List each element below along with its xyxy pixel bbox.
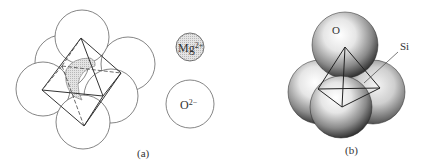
panel-b-tetrahedron bbox=[288, 12, 405, 138]
oxygen-sphere-top bbox=[312, 12, 378, 78]
panel-a-octahedron bbox=[16, 10, 155, 149]
oxygen-sphere-front bbox=[310, 76, 372, 138]
panel-a-caption: (a) bbox=[137, 147, 150, 160]
oxygen-label: O bbox=[332, 24, 340, 36]
panel-b-caption: (b) bbox=[345, 144, 358, 157]
silicon-label: Si bbox=[400, 40, 409, 52]
figure-canvas: Mg2+ O2− (a) O Si (b) bbox=[0, 0, 426, 166]
oxygen-circle-bottom bbox=[56, 95, 110, 149]
